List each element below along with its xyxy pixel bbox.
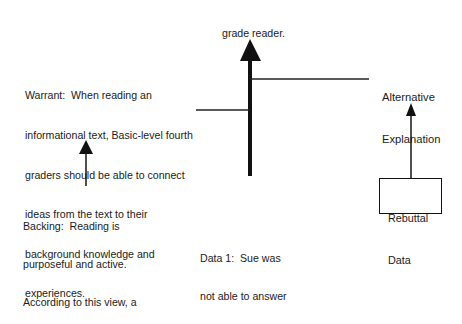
rebuttal-text: Rebuttal Data [388,183,428,295]
claim-text: grade reader. [222,2,285,52]
warrant-line: graders should be able to connect [25,169,193,182]
alternative-line: Alternative [382,90,440,104]
alternative-line: Explanation [382,132,440,146]
backing-text: Backing: Reading is purposeful and activ… [23,195,139,324]
data-line: Data 1: Sue was [200,252,292,265]
rebuttal-line: Rebuttal [388,211,428,225]
backing-line: purposeful and active. [23,258,139,271]
data-line: not able to answer [200,290,292,303]
data-text: Data 1: Sue was not able to answer quest… [200,227,292,324]
alternative-explanation-text: Alternative Explanation [382,62,440,160]
backing-line: Backing: Reading is [23,220,139,233]
warrant-line: Warrant: When reading an [25,89,193,102]
claim-line: grade reader. [222,27,285,40]
main-arrow [240,39,261,176]
rebuttal-line: Data [388,253,428,267]
rebuttal-data-box: Rebuttal Data [379,178,442,214]
warrant-line: informational text, Basic-level fourth [25,129,193,142]
backing-line: According to this view, a [23,296,139,309]
